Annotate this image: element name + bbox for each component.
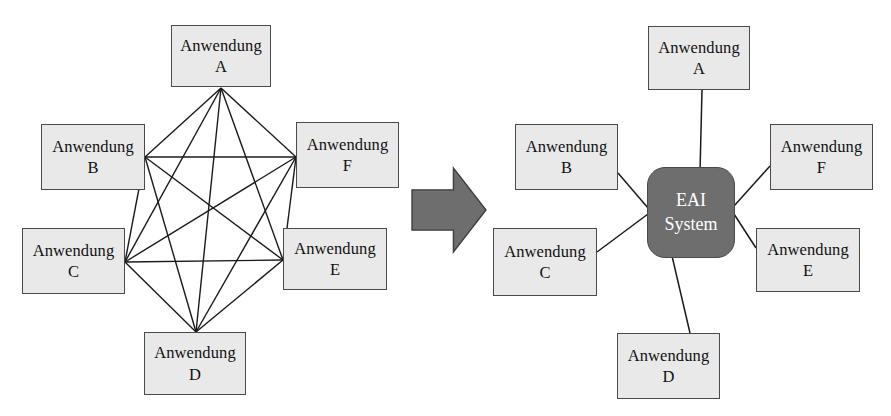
application-box-label-prefix: Anwendung bbox=[767, 239, 849, 260]
edge-b-e bbox=[145, 157, 283, 260]
application-box-right-e[interactable]: AnwendungE bbox=[756, 228, 860, 292]
spoke-a-to-eai bbox=[700, 90, 702, 172]
application-box-left-d[interactable]: AnwendungD bbox=[144, 332, 246, 395]
application-box-left-a[interactable]: AnwendungA bbox=[171, 25, 271, 87]
application-box-label-id: A bbox=[693, 58, 705, 79]
application-box-right-b[interactable]: AnwendungB bbox=[515, 124, 618, 190]
application-box-label-id: E bbox=[330, 259, 340, 280]
application-box-label-prefix: Anwendung bbox=[294, 238, 376, 259]
connections-layer bbox=[0, 0, 891, 416]
application-box-label-id: D bbox=[662, 366, 674, 387]
application-box-label-prefix: Anwendung bbox=[504, 241, 586, 262]
spoke-f-to-eai bbox=[734, 166, 770, 206]
application-box-label-id: A bbox=[215, 56, 227, 77]
application-box-label-id: B bbox=[561, 157, 572, 178]
eai-diagram-figure: EAI Punkt-zu-Punkt Integration vs. EAI S… bbox=[0, 0, 891, 416]
edge-c-f bbox=[125, 157, 296, 262]
edge-c-e bbox=[125, 260, 283, 262]
application-box-label-prefix: Anwendung bbox=[781, 136, 863, 157]
application-box-left-c[interactable]: AnwendungC bbox=[22, 228, 125, 294]
application-box-label-prefix: Anwendung bbox=[307, 134, 389, 155]
application-box-right-d[interactable]: AnwendungD bbox=[617, 333, 720, 399]
application-box-label-prefix: Anwendung bbox=[52, 136, 134, 157]
application-box-left-b[interactable]: AnwendungB bbox=[41, 124, 145, 190]
application-box-left-e[interactable]: AnwendungE bbox=[283, 228, 387, 290]
application-box-right-f[interactable]: AnwendungF bbox=[770, 124, 873, 190]
application-box-label-prefix: Anwendung bbox=[180, 35, 262, 56]
transformation-arrow-shape bbox=[412, 168, 486, 252]
application-box-label-id: C bbox=[539, 262, 550, 283]
edge-d-e bbox=[196, 260, 283, 332]
spoke-e-to-eai bbox=[734, 214, 756, 248]
application-box-label-prefix: Anwendung bbox=[33, 240, 115, 261]
eai-system-label-line1: EAI bbox=[676, 189, 706, 212]
application-box-label-id: B bbox=[87, 157, 98, 178]
application-box-label-id: D bbox=[189, 364, 201, 385]
application-box-right-a[interactable]: AnwendungA bbox=[648, 26, 750, 90]
application-box-label-prefix: Anwendung bbox=[628, 345, 710, 366]
spoke-d-to-eai bbox=[672, 256, 690, 333]
transformation-arrow-icon bbox=[412, 168, 486, 252]
application-box-right-c[interactable]: AnwendungC bbox=[493, 228, 597, 296]
application-box-label-id: E bbox=[803, 260, 813, 281]
eai-system-node[interactable]: EAI System bbox=[647, 167, 735, 258]
application-box-label-id: C bbox=[68, 261, 79, 282]
application-box-label-id: F bbox=[817, 157, 826, 178]
spoke-b-to-eai bbox=[618, 173, 648, 208]
spoke-c-to-eai bbox=[597, 214, 648, 252]
eai-system-label-line2: System bbox=[664, 213, 717, 236]
point-to-point-edges bbox=[125, 88, 296, 332]
edge-a-b bbox=[145, 88, 221, 157]
application-box-label-prefix: Anwendung bbox=[154, 342, 236, 363]
application-box-label-prefix: Anwendung bbox=[658, 37, 740, 58]
application-box-label-prefix: Anwendung bbox=[526, 136, 608, 157]
edge-a-f bbox=[221, 88, 296, 157]
application-box-label-id: F bbox=[343, 155, 352, 176]
application-box-left-f[interactable]: AnwendungF bbox=[296, 122, 399, 188]
